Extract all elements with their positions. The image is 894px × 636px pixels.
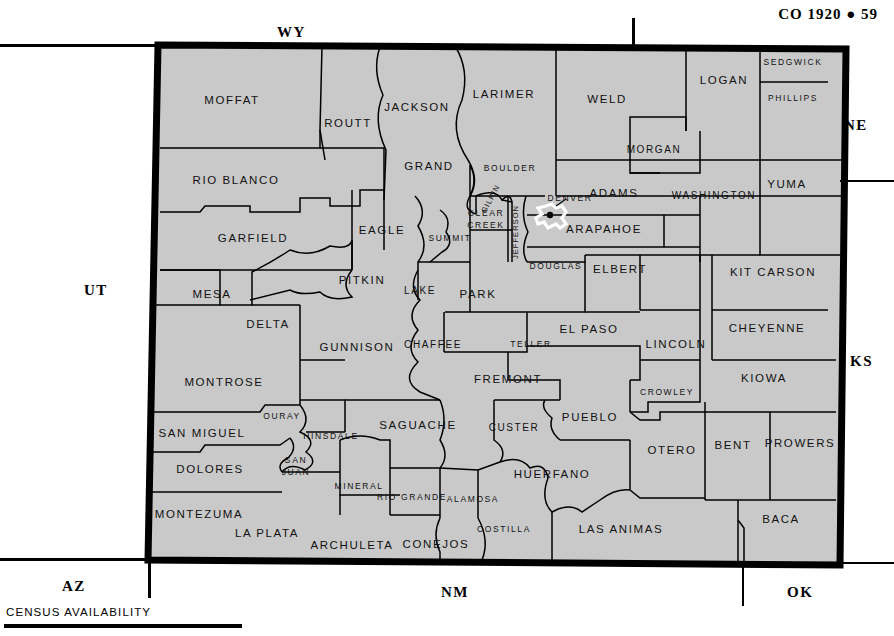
neighbor-state-ne: NE [844,117,868,134]
county-label: CONEJOS [403,538,470,550]
county-label: MINERAL [335,481,384,491]
footer-label: CENSUS AVAILABILITY [6,606,151,618]
county-label: JACKSON [384,101,450,113]
county-label: HINSDALE [303,431,358,441]
county-label: PHILLIPS [768,93,818,103]
county-label: SAGUACHE [379,419,456,431]
neighbor-state-nm: NM [441,584,469,601]
county-label: PARK [460,288,497,300]
county-label: ADAMS [590,187,639,199]
county-label: GARFIELD [218,232,288,244]
county-label: HUERFANO [514,468,591,480]
county-label: CHEYENNE [729,322,806,334]
county-label: LAKE [404,285,436,296]
county-label: OURAY [263,411,301,421]
county-label: FREMONT [474,373,542,385]
county-label: COSTILLA [477,524,531,534]
county-label: PITKIN [339,274,386,286]
county-label: ALAMOSA [447,494,499,504]
county-label: KIT CARSON [730,266,816,278]
tick-bottom-az-nm [148,558,151,598]
county-label: LINCOLN [645,338,706,350]
county-label: WASHINGTON [672,190,756,201]
county-label: TELLER [510,339,552,349]
county-label: CROWLEY [640,387,694,397]
county-label: GRAND [404,160,454,172]
county-label: EAGLE [359,224,405,236]
county-label: ARCHULETA [310,539,393,551]
county-label: RIO BLANCO [193,174,280,186]
county-label: SEDGWICK [763,57,822,67]
tick-bottom-nm-ok [742,564,744,606]
county-label: BACA [762,513,800,525]
county-label: ELBERT [593,263,647,275]
county-label: LARIMER [473,88,535,100]
county-label: PUEBLO [562,411,618,423]
county-label: YUMA [767,178,807,190]
neighbor-state-wy: WY [277,24,306,41]
county-label: BENT [714,439,751,451]
county-label: WELD [587,93,627,105]
county-label: JUAN [282,467,311,477]
tick-left-az [0,558,150,561]
tick-right-ne [840,180,894,182]
county-label: CUSTER [489,422,540,433]
county-label: DELTA [246,318,289,330]
county-label: MOFFAT [204,94,259,106]
county-label: SAN MIGUEL [159,427,246,439]
tick-right-ok [838,562,894,564]
county-label: LOGAN [700,74,748,86]
city-label-denver: DENVER [547,193,592,203]
county-label: GUNNISON [320,341,395,353]
neighbor-state-ok: OK [787,584,813,601]
tick-left-ut [0,44,160,47]
neighbor-state-ks: KS [850,353,873,370]
county-label: MONTROSE [184,376,263,388]
county-label: ARAPAHOE [566,223,642,235]
county-label: LA PLATA [235,527,299,539]
county-label: EL PASO [559,323,618,335]
county-label: PROWERS [765,437,836,449]
county-label: CHAFFEE [404,339,462,350]
county-label: KIOWA [741,372,787,384]
tick-top-wy [632,18,635,48]
county-label: CREEK [467,220,504,230]
county-label: RIO GRANDE [377,492,447,502]
county-label: MORGAN [627,144,682,155]
footer-rule [4,624,242,628]
county-label: JEFFERSON [511,205,520,259]
county-label: OTERO [648,444,697,456]
county-label: DOLORES [176,463,243,475]
county-label: ROUTT [324,117,372,129]
colorado-county-map: MOFFATROUTTJACKSONLARIMERWELDLOGANSEDGWI… [0,0,894,636]
county-label: BOULDER [484,163,536,173]
county-label: SAN [285,455,307,465]
county-label: DOUGLAS [530,261,583,271]
county-label: SUMMIT [428,233,471,243]
county-label: MESA [193,288,232,300]
county-label: LAS ANIMAS [579,523,663,535]
neighbor-state-az: AZ [62,578,86,595]
county-label: MONTEZUMA [155,508,244,520]
neighbor-state-ut: UT [84,282,108,299]
